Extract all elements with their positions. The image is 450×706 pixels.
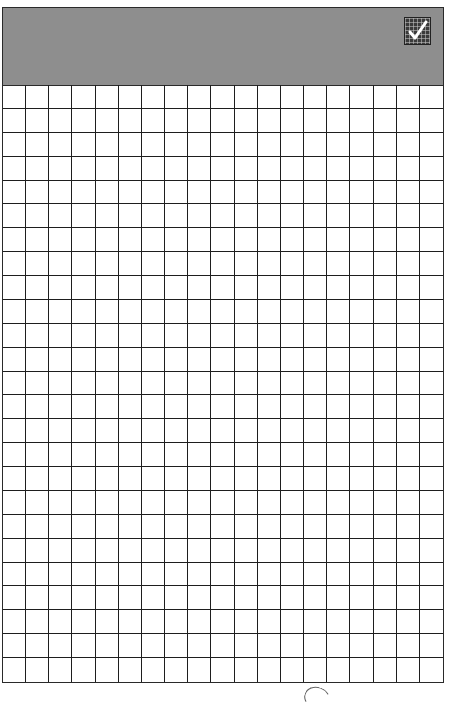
grid-cell [258, 491, 281, 515]
grid-cell [327, 252, 350, 276]
grid-cell [350, 300, 373, 324]
grid-cell [211, 324, 234, 348]
grid-cell [235, 228, 258, 252]
grid-cell [211, 443, 234, 467]
grid-cell [211, 228, 234, 252]
grid-cell [350, 348, 373, 372]
grid-cell [72, 610, 95, 634]
grid-cell [327, 85, 350, 109]
grid-cell [3, 157, 26, 181]
grid-cell [72, 563, 95, 587]
grid-cell [96, 658, 119, 682]
grid-cell [165, 419, 188, 443]
grid-cell [304, 204, 327, 228]
grid-cell [3, 85, 26, 109]
grid-cell [258, 539, 281, 563]
grid-cell [188, 181, 211, 205]
grid-cell [96, 372, 119, 396]
grid-cell [258, 372, 281, 396]
grid-cell [281, 85, 304, 109]
grid-cell [188, 443, 211, 467]
grid-cell [49, 372, 72, 396]
grid-cell [374, 300, 397, 324]
grid-cell [142, 515, 165, 539]
grid-cell [397, 300, 420, 324]
grid-cell [397, 467, 420, 491]
grid-cell [96, 395, 119, 419]
grid-cell [188, 109, 211, 133]
grid-cell [142, 348, 165, 372]
grid-cell [350, 85, 373, 109]
grid-cell [350, 228, 373, 252]
grid-cell [49, 610, 72, 634]
grid-cell [397, 372, 420, 396]
grid-cell [26, 491, 49, 515]
grid-cell [119, 181, 142, 205]
grid-cell [49, 85, 72, 109]
grid-cell [3, 109, 26, 133]
grid-cell [119, 515, 142, 539]
grid-cell [96, 348, 119, 372]
grid-cell [327, 324, 350, 348]
grid-cell [350, 515, 373, 539]
grid-cell [142, 157, 165, 181]
grid-cell [211, 491, 234, 515]
grid-cell [165, 228, 188, 252]
grid-cell [165, 586, 188, 610]
grid-cell [26, 324, 49, 348]
grid-cell [142, 443, 165, 467]
grid-cell [119, 563, 142, 587]
grid-cell [258, 181, 281, 205]
grid-cell [235, 515, 258, 539]
grid-cell [327, 157, 350, 181]
grid-cell [72, 157, 95, 181]
grid-cell [258, 157, 281, 181]
grid-cell [96, 610, 119, 634]
grid-cell [165, 252, 188, 276]
grid-cell [165, 491, 188, 515]
grid-cell [304, 491, 327, 515]
pad-header [3, 8, 443, 86]
grid-cell [350, 276, 373, 300]
grid-cell [258, 467, 281, 491]
grid-cell [49, 228, 72, 252]
grid-cell [281, 133, 304, 157]
grid-cell [165, 395, 188, 419]
grid-cell [374, 157, 397, 181]
grid-cell [211, 252, 234, 276]
grid-cell [258, 515, 281, 539]
grid-cell [350, 443, 373, 467]
grid-cell [420, 419, 443, 443]
grid-cell [72, 204, 95, 228]
grid-cell [26, 443, 49, 467]
grid-cell [96, 276, 119, 300]
grid-cell [235, 109, 258, 133]
grid-cell [188, 634, 211, 658]
grid-cell [304, 372, 327, 396]
grid-cell [327, 300, 350, 324]
grid-cell [165, 204, 188, 228]
grid-cell [397, 515, 420, 539]
grid-cell [258, 658, 281, 682]
grid-cell [304, 539, 327, 563]
grid-cell [3, 610, 26, 634]
grid-cell [211, 395, 234, 419]
grid-cell [165, 515, 188, 539]
grid-cell [420, 634, 443, 658]
grid-cell [350, 133, 373, 157]
grid-cell [281, 443, 304, 467]
grid-cell [235, 324, 258, 348]
grid-cell [211, 419, 234, 443]
grid-cell [119, 419, 142, 443]
grid-cell [96, 181, 119, 205]
grid-cell [3, 419, 26, 443]
grid-cell [235, 467, 258, 491]
grid-cell [119, 252, 142, 276]
grid-cell [350, 395, 373, 419]
grid-cell [3, 467, 26, 491]
grid-cell [304, 443, 327, 467]
grid-cell [235, 252, 258, 276]
grid-cell [281, 324, 304, 348]
grid-cell [235, 85, 258, 109]
grid-cell [165, 109, 188, 133]
